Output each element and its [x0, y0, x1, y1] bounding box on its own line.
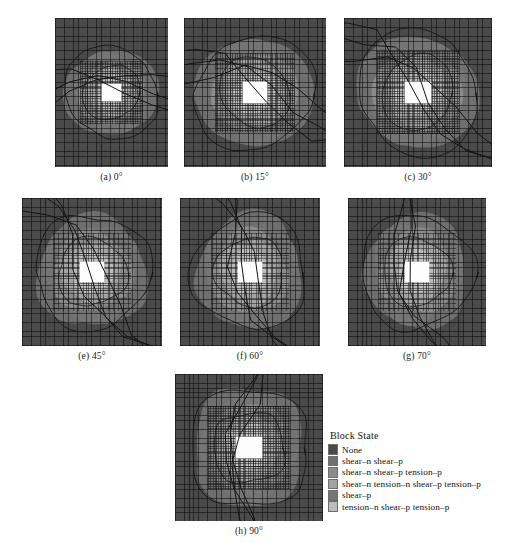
legend-label-1: shear–n shear–p	[342, 456, 403, 466]
legend-row-0: None	[328, 444, 504, 455]
joint-trace	[22, 198, 162, 346]
joint-trace	[184, 50, 326, 142]
legend-swatch-2	[328, 467, 338, 478]
panel-g	[348, 198, 486, 346]
panel-plot-g	[348, 198, 486, 346]
plastic-zone-contour	[36, 215, 153, 332]
inner-zone-contour	[214, 413, 285, 483]
legend-row-5: tension–n shear–p tension–p	[328, 501, 504, 512]
panel-caption-h: (h) 90°	[175, 526, 323, 536]
inner-zone-contour	[212, 237, 282, 308]
legend-label-5: tension–n shear–p tension–p	[342, 502, 449, 512]
panel-caption-e: (e) 45°	[22, 351, 162, 361]
plastic-zone-contour	[188, 212, 304, 330]
legend-row-2: shear–n shear–p tension–p	[328, 467, 504, 478]
legend-label-3: shear–n tension–n shear–p tension–p	[342, 479, 481, 489]
plastic-zone-contour	[363, 215, 479, 332]
joint-trace	[184, 65, 326, 131]
panel-plot-h	[175, 374, 323, 521]
panel-caption-b: (b) 15°	[184, 172, 326, 182]
joint-trace	[382, 198, 472, 346]
legend-label-0: None	[342, 445, 362, 455]
panel-a	[55, 18, 168, 167]
joint-trace	[22, 200, 162, 346]
legend-rows: Noneshear–n shear–pshear–n shear–p tensi…	[328, 444, 504, 512]
panel-plot-e	[22, 198, 162, 346]
panel-plot-c	[344, 18, 492, 167]
legend-swatch-3	[328, 479, 338, 490]
panel-caption-a: (a) 0°	[55, 172, 168, 182]
panel-b	[184, 18, 326, 167]
panel-h	[175, 374, 323, 521]
inner-zone-contour	[382, 53, 453, 130]
legend-row-3: shear–n tension–n shear–p tension–p	[328, 478, 504, 489]
joint-trace	[22, 198, 162, 346]
legend-row-4: shear–p	[328, 490, 504, 501]
joint-trace	[184, 54, 326, 142]
panel-caption-c: (c) 30°	[344, 172, 492, 182]
panel-c	[344, 18, 492, 167]
legend-swatch-1	[328, 456, 338, 467]
joint-trace	[232, 374, 278, 521]
panel-f	[180, 198, 320, 346]
legend-label-4: shear–p	[342, 490, 371, 500]
panel-e	[22, 198, 162, 346]
legend-swatch-5	[328, 501, 338, 512]
plastic-zone-contour	[193, 390, 307, 504]
legend: Block State Noneshear–n shear–pshear–n s…	[328, 430, 504, 512]
joint-trace	[344, 23, 492, 159]
legend-label-2: shear–n shear–p tension–p	[342, 467, 442, 477]
plastic-zone-contour	[193, 36, 317, 151]
inner-zone-contour	[82, 65, 139, 120]
panel-plot-a	[55, 18, 168, 167]
panel-plot-f	[180, 198, 320, 346]
panel-caption-f: (f) 60°	[180, 351, 320, 361]
joint-trace	[344, 45, 492, 158]
joint-trace	[55, 76, 168, 109]
joint-trace	[183, 198, 320, 346]
panel-caption-g: (g) 70°	[348, 351, 486, 361]
joint-trace	[344, 27, 492, 159]
plastic-zone-contour	[65, 45, 158, 139]
joint-trace	[180, 198, 320, 346]
legend-row-1: shear–n shear–p	[328, 455, 504, 466]
legend-swatch-0	[328, 444, 338, 455]
legend-swatch-4	[328, 490, 338, 501]
legend-title: Block State	[330, 430, 504, 441]
panel-plot-b	[184, 18, 326, 167]
inner-zone-contour	[59, 236, 129, 306]
plastic-zone-contour	[360, 28, 478, 159]
